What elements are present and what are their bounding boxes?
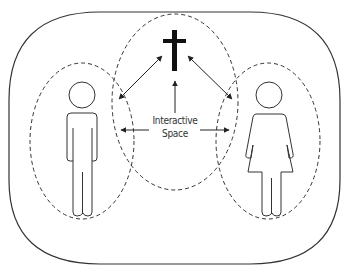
woman-figure-icon <box>246 82 293 216</box>
man-figure-icon <box>67 82 97 216</box>
arrow-cross-man <box>119 56 162 99</box>
interactive-space-label-line2: Space <box>142 128 208 140</box>
cross-icon <box>163 30 186 71</box>
interactive-space-label-line1: Interactive <box>142 115 208 127</box>
arrow-cross-woman <box>188 56 232 99</box>
right-ellipse <box>216 63 320 219</box>
